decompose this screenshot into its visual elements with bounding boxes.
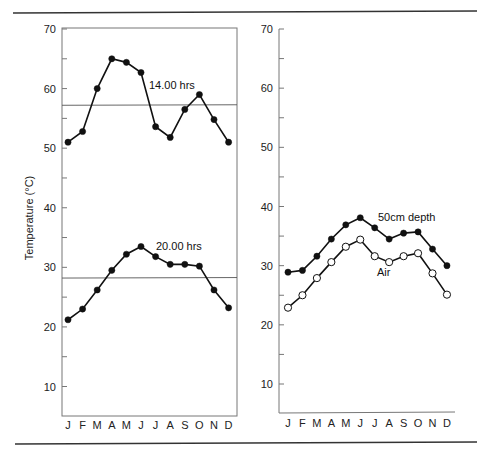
filled-marker: [138, 243, 144, 249]
month-label: D: [443, 417, 451, 429]
filled-marker: [109, 267, 115, 273]
month-label: D: [225, 419, 233, 431]
open-marker: [299, 292, 306, 299]
mean-line: [62, 278, 237, 279]
month-label: A: [108, 419, 116, 431]
month-label: N: [210, 419, 218, 431]
open-marker: [400, 253, 407, 260]
y-tick-label: 70: [261, 23, 273, 35]
filled-marker: [167, 134, 173, 140]
y-tick-label: 20: [261, 319, 273, 331]
left-x-axis: JFMAMJJASOND: [65, 419, 232, 431]
figure: Temperature (°C) 10203040506070 JFMAMJJA…: [0, 0, 479, 450]
open-marker: [284, 304, 291, 311]
top-rule: [13, 11, 477, 13]
y-tick-label: 10: [44, 381, 56, 393]
filled-marker: [314, 253, 320, 259]
filled-marker: [80, 306, 86, 312]
month-label: O: [195, 419, 204, 431]
filled-marker: [80, 128, 86, 134]
month-label: A: [328, 417, 336, 429]
filled-marker: [372, 225, 378, 231]
filled-marker: [196, 91, 202, 97]
filled-marker: [123, 59, 129, 65]
open-marker: [443, 291, 450, 298]
month-label: J: [65, 419, 71, 431]
filled-marker: [299, 267, 305, 273]
annotation-20hrs: 20.00 hrs: [156, 240, 202, 252]
filled-marker: [182, 106, 188, 112]
month-label: M: [122, 419, 131, 431]
y-axis-label: Temperature (°C): [23, 176, 35, 260]
month-label: S: [400, 417, 407, 429]
filled-marker: [343, 222, 349, 228]
y-tick-label: 50: [44, 142, 56, 154]
month-label: M: [93, 419, 102, 431]
month-label: N: [429, 417, 437, 429]
filled-marker: [386, 236, 392, 242]
y-tick-label: 30: [261, 260, 273, 272]
month-label: J: [372, 417, 378, 429]
filled-marker: [153, 254, 159, 260]
month-label: O: [414, 417, 423, 429]
open-marker: [386, 259, 393, 266]
month-label: S: [181, 419, 188, 431]
y-tick-label: 10: [261, 378, 273, 390]
filled-marker: [415, 229, 421, 235]
month-label: M: [341, 417, 350, 429]
filled-marker: [167, 261, 173, 267]
right-x-axis-line: [279, 412, 455, 413]
month-label: J: [153, 419, 159, 431]
filled-marker: [285, 269, 291, 275]
filled-marker: [328, 236, 334, 242]
bottom-rule: [15, 442, 477, 444]
filled-marker: [138, 69, 144, 75]
series-line: [288, 240, 447, 308]
filled-marker: [401, 230, 407, 236]
y-tick-label: 40: [261, 201, 273, 213]
filled-marker: [196, 263, 202, 269]
y-tick-label: 20: [44, 321, 56, 333]
y-tick-label: 70: [44, 23, 56, 35]
filled-marker: [94, 85, 100, 91]
series-line: [68, 59, 229, 142]
filled-marker: [226, 139, 232, 145]
filled-marker: [65, 317, 71, 323]
right-x-axis: JFMAMJJASOND: [285, 417, 451, 429]
month-label: J: [138, 419, 144, 431]
filled-marker: [357, 215, 363, 221]
open-marker: [357, 236, 364, 243]
open-marker: [414, 250, 421, 257]
open-marker: [371, 253, 378, 260]
right-chart-panel: 10203040506070 JFMAMJJASOND 50cm depth A…: [261, 23, 455, 429]
filled-marker: [226, 305, 232, 311]
y-tick-label: 60: [44, 83, 56, 95]
open-marker: [342, 243, 349, 250]
left-chart-panel: 10203040506070 JFMAMJJASOND 14.00 hrs 20…: [44, 23, 237, 431]
filled-marker: [211, 287, 217, 293]
filled-marker: [429, 246, 435, 252]
filled-marker: [94, 287, 100, 293]
y-tick-label: 30: [44, 261, 56, 273]
open-marker: [313, 274, 320, 281]
filled-marker: [153, 124, 159, 130]
series-line: [288, 218, 447, 272]
left-series: [65, 56, 232, 323]
annotation-14hrs: 14.00 hrs: [149, 79, 195, 91]
y-tick-label: 50: [261, 141, 273, 153]
month-label: A: [385, 417, 393, 429]
month-label: F: [299, 417, 306, 429]
annotation-air: Air: [377, 266, 391, 278]
month-label: A: [167, 419, 175, 431]
month-label: J: [358, 417, 364, 429]
filled-marker: [65, 139, 71, 145]
right-y-axis: 10203040506070: [261, 23, 284, 390]
filled-marker: [109, 56, 115, 62]
open-marker: [429, 270, 436, 277]
filled-marker: [123, 251, 129, 257]
right-series: [284, 215, 450, 312]
month-label: J: [285, 417, 291, 429]
y-tick-label: 60: [261, 82, 273, 94]
filled-marker: [444, 263, 450, 269]
filled-marker: [182, 261, 188, 267]
